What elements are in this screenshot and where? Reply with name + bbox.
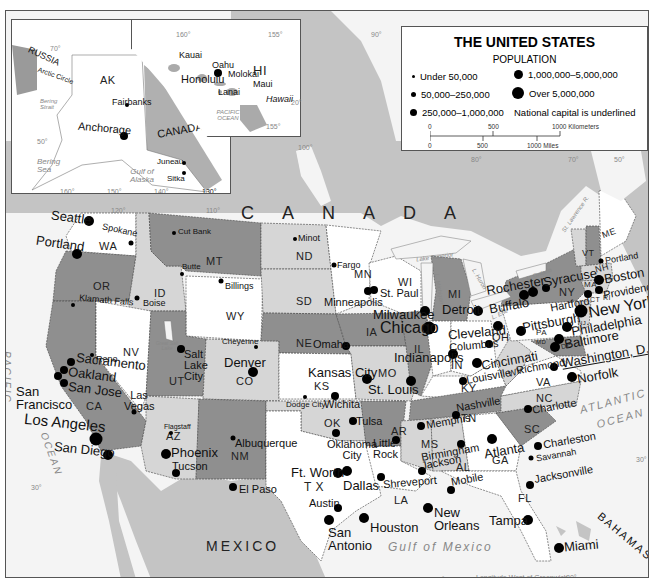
label-state-ne: NE — [296, 338, 312, 349]
legend-item-over-5m: Over 5,000,000 — [512, 87, 595, 99]
label-albuquerque: Albuquerque — [235, 438, 297, 449]
grid-hawaii-155-bottom: 155° — [266, 123, 280, 130]
label-dallas: Dallas — [343, 479, 379, 492]
label-flagstaff: Flagstaff — [164, 423, 191, 430]
label-state-ok: OK — [324, 418, 341, 429]
label-ak: AK — [100, 75, 116, 86]
legend-capital-note: National capital is underlined — [514, 107, 635, 118]
label-dodge-city: Dodge City — [286, 401, 326, 409]
legend-item-50k-250k: 50,000–250,000 — [411, 89, 490, 100]
grid-hawaii-155-top: 155° — [268, 31, 282, 38]
city-dot-jacksonville — [526, 481, 534, 489]
label-state-mo: MO — [378, 368, 397, 379]
city-dot-st-paul — [370, 286, 378, 294]
label-fargo: Fargo — [337, 261, 361, 270]
city-dot-boston — [594, 275, 604, 285]
scale-km-0: 0 — [428, 123, 432, 130]
label-gulf-alaska: Gulf of Alaska — [122, 168, 162, 184]
label-honolulu: Honolulu — [181, 74, 224, 85]
grid-alaska-150: 150° — [107, 188, 121, 194]
label-indianapolis: Indianapolis — [394, 351, 463, 364]
map-frame: RUSSIA Arctic Circle AK Fairbanks Anchor… — [5, 10, 649, 578]
label-sitka: Sitka — [167, 175, 185, 183]
city-dot-miami — [554, 543, 564, 553]
label-omaha: Omaha — [313, 339, 349, 350]
label-state-ut: UT — [169, 376, 185, 387]
label-state-ca: CA — [86, 401, 102, 412]
city-dot-butte — [180, 272, 184, 276]
city-dot-buffalo — [528, 287, 538, 297]
grid-lat-30-west: 30° — [31, 484, 42, 491]
city-dot-dallas — [342, 466, 352, 476]
city-dot-flagstaff — [169, 431, 173, 435]
legend-label-50k-250k: 50,000–250,000 — [421, 89, 490, 100]
city-dot-portland-me — [599, 259, 604, 264]
label-state-or: OR — [93, 281, 111, 292]
legend-subtitle: POPULATION — [402, 54, 647, 65]
label-state-la: LA — [394, 495, 408, 506]
scale-mi-1000: 1000 Miles — [527, 142, 558, 149]
label-detroit: Detroit — [442, 303, 480, 316]
city-dot-atlanta — [487, 434, 497, 444]
city-dot-el-paso — [229, 483, 237, 491]
grid-lat-50: 50° — [614, 156, 625, 163]
label-state-va: VA — [536, 377, 551, 388]
city-dot-savannah — [529, 456, 534, 461]
label-state-nd: ND — [296, 251, 313, 262]
scale-mi-500: 500 — [477, 142, 488, 149]
label-state-wa: WA — [99, 241, 117, 252]
label-kauai: Kauai — [179, 51, 202, 60]
label-state-vt: VT — [582, 249, 595, 258]
city-dot-charleston — [534, 442, 542, 450]
label-juneau: Juneau — [157, 158, 183, 166]
grid-top-100: 100° — [298, 144, 312, 151]
city-dot-houston — [359, 513, 369, 523]
legend-dot-1m-5m — [514, 70, 523, 79]
city-dot-new-orleans — [423, 503, 433, 513]
grid-alaska-140: 140° — [154, 188, 168, 194]
scale-km-500: 500 — [488, 123, 499, 130]
label-bering-strait: Bering Strait — [40, 98, 70, 110]
label-las-vegas: Las Vegas — [124, 390, 154, 412]
legend-title: THE UNITED STATES — [402, 34, 647, 50]
legend-dot-50k-250k — [411, 92, 416, 97]
legend-label-over-5m: Over 5,000,000 — [529, 88, 595, 99]
grid-top-90: 90° — [371, 31, 382, 38]
label-state-mn: MN — [354, 269, 372, 280]
grid-bottom-90: 90° — [434, 576, 445, 578]
city-dot-memphis — [417, 422, 425, 430]
label-kansas-city: Kansas City — [308, 366, 377, 379]
label-butte: Butte — [182, 263, 201, 271]
label-hawaii-island: Hawaii — [266, 95, 293, 104]
label-wichita: Wichita — [324, 399, 360, 410]
city-dot-san-antonio — [324, 515, 334, 525]
label-phoenix: Phoenix — [171, 446, 218, 459]
city-dot-spokane — [129, 241, 134, 246]
label-state-sc: SC — [524, 424, 540, 435]
city-dot-boise — [135, 296, 140, 301]
legend-box: THE UNITED STATES POPULATION Under 50,00… — [401, 26, 648, 151]
label-state-nm: NM — [231, 451, 249, 462]
grid-top-120: 120° — [111, 207, 125, 214]
label-houston: Houston — [370, 521, 418, 534]
label-miami: Miami — [563, 538, 599, 554]
label-state-mi: MI — [448, 289, 461, 300]
label-state-wy: WY — [226, 311, 245, 322]
label-boise: Boise — [143, 299, 166, 308]
label-st-paul: St. Paul — [380, 288, 419, 299]
city-dot-oklahoma-city — [332, 429, 340, 437]
label-little-rock: Little Rock — [373, 438, 398, 460]
grid-footer-note: Longitude West of Greenwich — [476, 574, 568, 578]
label-chicago: Chicago — [380, 320, 439, 336]
city-dot-phoenix — [161, 449, 171, 459]
legend-item-1m-5m: 1,000,000–5,000,000 — [514, 69, 618, 80]
label-mexico: MEXICO — [206, 539, 279, 553]
label-billings: Billings — [225, 282, 254, 291]
label-state-md: MD — [536, 339, 546, 345]
label-new-orleans: New Orleans — [434, 506, 484, 532]
label-salt-lake-city: Salt Lake City — [184, 349, 212, 382]
label-st-louis: St. Louis — [368, 383, 419, 396]
label-cut-bank: Cut Bank — [178, 228, 211, 236]
scale-bar — [430, 131, 565, 141]
label-pacific: PACIFIC — [5, 351, 11, 404]
